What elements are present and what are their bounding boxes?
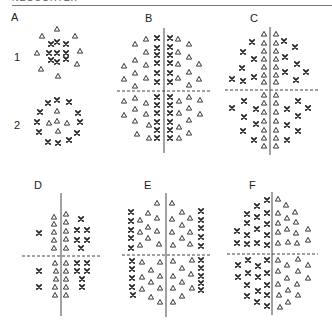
- triangle-icon: [55, 128, 60, 133]
- triangle-icon: [305, 275, 310, 280]
- cross-icon: [306, 106, 310, 110]
- triangle-icon: [261, 48, 266, 53]
- cross-icon: [199, 266, 203, 270]
- triangle-icon: [154, 228, 159, 233]
- cross-icon: [129, 219, 133, 223]
- cross-icon: [240, 66, 244, 70]
- triangle-icon: [273, 100, 278, 105]
- cross-icon: [256, 275, 260, 279]
- triangle-icon: [63, 236, 68, 241]
- triangle-icon: [157, 259, 162, 264]
- triangle-icon: [273, 64, 278, 69]
- triangle-icon: [275, 257, 280, 262]
- triangle-icon: [157, 273, 162, 278]
- cross-icon: [168, 128, 172, 132]
- triangle-icon: [169, 216, 174, 221]
- cross-icon: [296, 114, 300, 118]
- triangle-icon: [186, 54, 191, 59]
- triangle-icon: [156, 241, 161, 246]
- cross-icon: [37, 231, 41, 235]
- cross-icon: [265, 258, 269, 262]
- cross-icon: [155, 80, 159, 84]
- triangle-icon: [175, 49, 180, 54]
- triangle-icon: [63, 245, 68, 250]
- triangle-icon: [54, 108, 59, 113]
- cross-icon: [155, 111, 159, 115]
- cross-icon: [282, 39, 286, 43]
- cross-icon: [199, 258, 203, 262]
- cross-icon: [250, 40, 254, 44]
- cross-icon: [293, 45, 297, 49]
- triangle-icon: [64, 120, 69, 125]
- triangle-icon: [197, 97, 202, 102]
- cross-icon: [85, 269, 89, 273]
- cross-icon: [256, 289, 260, 293]
- triangle-icon: [276, 292, 281, 297]
- triangle-icon: [273, 56, 278, 61]
- triangle-icon: [273, 127, 278, 132]
- triangle-icon: [285, 287, 290, 292]
- triangle-icon: [154, 200, 159, 205]
- triangle-icon: [189, 285, 194, 290]
- cross-icon: [252, 57, 256, 61]
- cross-icon: [254, 107, 258, 111]
- triangle-icon: [169, 229, 174, 234]
- cross-icon: [67, 138, 71, 142]
- cross-icon: [85, 261, 89, 265]
- cross-icon: [64, 57, 68, 61]
- cross-icon: [37, 269, 41, 273]
- triangle-icon: [121, 76, 126, 81]
- cross-icon: [265, 283, 269, 287]
- cross-icon: [64, 51, 68, 55]
- triangle-icon: [34, 50, 39, 55]
- triangle-icon: [261, 79, 266, 84]
- triangle-icon: [143, 100, 148, 105]
- triangle-icon: [63, 276, 68, 281]
- cross-icon: [49, 42, 53, 46]
- cross-icon: [85, 228, 89, 232]
- triangle-icon: [63, 260, 68, 265]
- triangle-icon: [284, 226, 289, 231]
- triangle-icon: [51, 245, 56, 250]
- triangle-icon: [196, 76, 201, 81]
- cross-icon: [295, 62, 299, 66]
- cross-icon: [78, 120, 82, 124]
- triangle-icon: [170, 299, 175, 304]
- triangle-icon: [170, 273, 175, 278]
- cross-icon: [155, 46, 159, 50]
- cross-icon: [38, 110, 42, 114]
- triangle-icon: [157, 285, 162, 290]
- triangle-icon: [145, 210, 150, 215]
- triangle-icon: [169, 200, 174, 205]
- cross-icon: [168, 95, 172, 99]
- triangle-icon: [53, 268, 58, 273]
- triangle-icon: [38, 66, 43, 71]
- triangle-icon: [137, 217, 142, 222]
- triangle-icon: [186, 41, 191, 46]
- triangle-icon: [139, 259, 144, 264]
- cross-icon: [130, 267, 134, 271]
- triangle-icon: [176, 135, 181, 140]
- triangle-icon: [63, 284, 68, 289]
- cross-icon: [155, 61, 159, 65]
- triangle-icon: [51, 221, 56, 226]
- triangle-icon: [148, 294, 153, 299]
- triangle-icon: [54, 118, 59, 123]
- cross-icon: [76, 111, 80, 115]
- triangle-icon: [189, 257, 194, 262]
- cross-icon: [245, 242, 249, 246]
- cross-icon: [129, 236, 133, 240]
- triangle-icon: [277, 304, 282, 309]
- cross-icon: [168, 71, 172, 75]
- triangle-icon: [275, 229, 280, 234]
- cross-icon: [55, 60, 59, 64]
- triangle-icon: [132, 106, 137, 111]
- triangle-icon: [143, 36, 148, 41]
- triangle-icon: [187, 241, 192, 246]
- cross-icon: [35, 120, 39, 124]
- triangle-icon: [285, 239, 290, 244]
- cross-icon: [79, 217, 83, 221]
- cross-icon: [64, 42, 68, 46]
- cross-icon: [242, 115, 246, 119]
- triangle-icon: [273, 92, 278, 97]
